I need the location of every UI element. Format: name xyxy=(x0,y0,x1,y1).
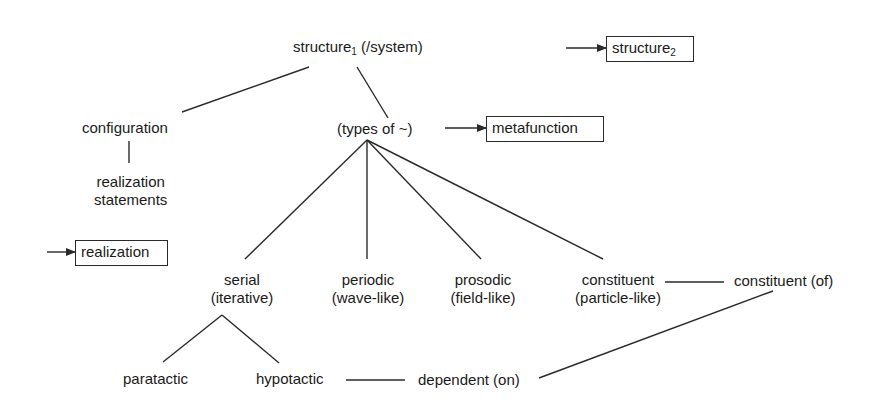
edge-types-prosodic xyxy=(367,140,481,259)
node-metafunction: metafunction xyxy=(486,116,604,142)
edge-structure-types xyxy=(357,67,388,118)
constituent-line1: constituent xyxy=(566,271,670,289)
realization-statements-line2: statements xyxy=(94,191,167,209)
node-dependent-on: dependent (on) xyxy=(418,371,520,389)
constituent-line2: (particle-like) xyxy=(566,289,670,307)
structure2-subscript: 2 xyxy=(670,47,676,58)
types-of-label: (types of ~) xyxy=(337,120,412,137)
node-hypotactic: hypotactic xyxy=(256,370,324,388)
node-structure1: structure1 (/system) xyxy=(293,38,423,56)
edge-serial-hypotactic xyxy=(222,315,279,363)
structure2-label: structure xyxy=(612,39,670,56)
diagram-canvas: structure1 (/system) structure2 configur… xyxy=(0,0,889,412)
realization-statements-line1: realization xyxy=(94,173,167,191)
structure1-suffix: (/system) xyxy=(357,38,423,55)
node-serial: serial (iterative) xyxy=(202,271,282,307)
edge-types-constituent xyxy=(367,140,603,259)
prosodic-line2: (field-like) xyxy=(443,289,523,307)
hypotactic-label: hypotactic xyxy=(256,370,324,387)
realization-label: realization xyxy=(81,243,149,260)
node-types-of: (types of ~) xyxy=(337,120,412,138)
node-periodic: periodic (wave-like) xyxy=(326,271,410,307)
node-realization-statements: realization statements xyxy=(94,173,167,209)
edge-types-serial xyxy=(245,140,367,259)
periodic-line2: (wave-like) xyxy=(326,289,410,307)
serial-line2: (iterative) xyxy=(202,289,282,307)
node-constituent-of: constituent (of) xyxy=(734,272,833,290)
node-configuration: configuration xyxy=(82,119,168,137)
edge-structure-configuration xyxy=(182,67,309,112)
node-constituent: constituent (particle-like) xyxy=(566,271,670,307)
metafunction-label: metafunction xyxy=(492,119,578,136)
constituent-of-label: constituent (of) xyxy=(734,272,833,289)
serial-line1: serial xyxy=(202,271,282,289)
node-structure2: structure2 xyxy=(606,36,694,62)
prosodic-line1: prosodic xyxy=(443,271,523,289)
structure1-label: structure xyxy=(293,38,351,55)
node-realization: realization xyxy=(75,240,168,266)
node-paratactic: paratactic xyxy=(123,370,188,388)
edge-serial-paratactic xyxy=(163,315,222,362)
dependent-on-label: dependent (on) xyxy=(418,371,520,388)
periodic-line1: periodic xyxy=(326,271,410,289)
node-prosodic: prosodic (field-like) xyxy=(443,271,523,307)
paratactic-label: paratactic xyxy=(123,370,188,387)
configuration-label: configuration xyxy=(82,119,168,136)
